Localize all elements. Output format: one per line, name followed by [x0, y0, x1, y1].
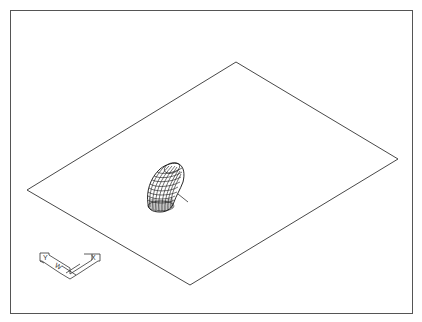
ucs-y-label: Y	[43, 254, 48, 261]
ucs-x-label: X	[91, 254, 96, 261]
bottom-strip	[10, 315, 413, 322]
ground-plane[interactable]	[27, 62, 398, 285]
pipe-elbow[interactable]	[148, 161, 189, 212]
drawing-canvas[interactable]: Y W X	[0, 0, 422, 322]
elbow-axis-line	[178, 194, 188, 202]
